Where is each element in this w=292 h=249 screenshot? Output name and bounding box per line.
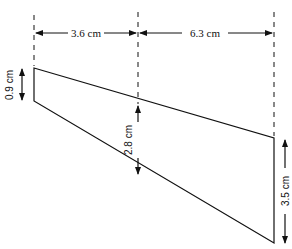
trapezoid-diagram: 3.6 cm 6.3 cm 0.9 cm 2.8 cm 3.5 cm bbox=[0, 0, 292, 249]
svg-text:3.5 cm: 3.5 cm bbox=[280, 176, 291, 206]
svg-text:6.3 cm: 6.3 cm bbox=[190, 27, 220, 39]
dimension-left-width: 3.6 cm bbox=[36, 27, 136, 39]
dimension-left-height: 0.9 cm bbox=[4, 69, 22, 100]
dimension-middle-height: 2.8 cm bbox=[123, 106, 138, 174]
svg-text:0.9 cm: 0.9 cm bbox=[4, 70, 15, 100]
svg-text:3.6 cm: 3.6 cm bbox=[71, 27, 101, 39]
dimension-right-height: 3.5 cm bbox=[280, 140, 291, 243]
dimension-right-width: 6.3 cm bbox=[140, 27, 272, 39]
svg-text:2.8 cm: 2.8 cm bbox=[123, 125, 134, 155]
trapezoid-shape bbox=[34, 68, 274, 243]
